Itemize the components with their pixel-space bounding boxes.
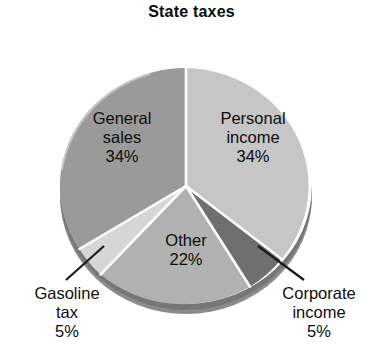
pie-label-general-sales: General sales 34% <box>62 109 182 166</box>
pie-chart-figure: State taxes <box>0 0 383 360</box>
pie-label-corporate-income-line2: income <box>256 303 382 322</box>
pie-label-gasoline-tax-line2: tax <box>6 303 128 322</box>
pie-label-personal-income-line2: income <box>192 128 314 147</box>
pie-label-personal-income-value: 34% <box>192 147 314 166</box>
pie-label-gasoline-tax-line1: Gasoline <box>6 284 128 303</box>
pie-label-gasoline-tax: Gasoline tax 5% <box>6 284 128 341</box>
pie-label-personal-income: Personal income 34% <box>192 109 314 166</box>
pie-label-other: Other 22% <box>134 231 238 269</box>
pie-label-corporate-income: Corporate income 5% <box>256 284 382 341</box>
pie-label-general-sales-line2: sales <box>62 128 182 147</box>
pie-label-general-sales-line1: General <box>62 109 182 128</box>
pie-label-personal-income-line1: Personal <box>192 109 314 128</box>
pie-label-other-line1: Other <box>134 231 238 250</box>
pie-label-general-sales-value: 34% <box>62 147 182 166</box>
pie-label-other-value: 22% <box>134 250 238 269</box>
pie-label-corporate-income-line1: Corporate <box>256 284 382 303</box>
pie-label-corporate-income-value: 5% <box>256 322 382 341</box>
pie-label-gasoline-tax-value: 5% <box>6 322 128 341</box>
